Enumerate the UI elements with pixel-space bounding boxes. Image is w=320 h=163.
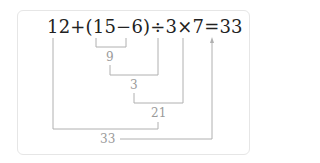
step-label-33: 33 [100, 132, 115, 146]
step-label-9: 9 [106, 50, 114, 64]
arrow-head-icon [210, 37, 214, 43]
step-label-3: 3 [130, 78, 138, 92]
step-label-21: 21 [151, 106, 166, 120]
